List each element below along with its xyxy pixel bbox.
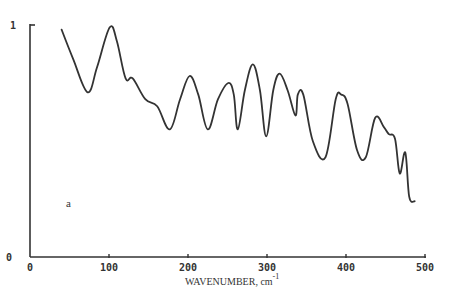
y-tick-label-0: 0 [6,252,12,263]
spectrum-chart: 0100200300400500 1 0 WAVENUMBER, cm-1 a [0,0,461,302]
y-tick-label-1: 1 [10,20,16,31]
x-tick-labels: 0100200300400500 [27,262,434,273]
x-tick-label: 100 [100,262,118,273]
x-axis-title-superscript: -1 [273,272,280,281]
x-tick-label: 200 [179,262,197,273]
x-tick-label: 500 [416,262,434,273]
annotation-a: a [66,197,71,209]
x-axis-title-text: WAVENUMBER, cm [185,276,273,287]
spectrum-line [62,26,415,202]
x-tick-label: 400 [337,262,355,273]
x-axis-title: WAVENUMBER, cm-1 [185,272,279,287]
x-tick-label: 0 [27,262,33,273]
